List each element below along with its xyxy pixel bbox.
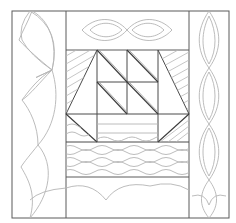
sail-diagonal-echo [99,50,129,82]
loop-outer-left [82,20,127,41]
wave-line [62,162,190,167]
hull-hatch [160,120,189,142]
bottom-scallop-band [66,184,189,200]
left-panel-diagonal [66,50,97,114]
quilt-pattern [0,0,236,223]
sail-diagonal [97,50,127,82]
top-band-motif [82,20,172,41]
sail-diagonal-echo [129,50,158,80]
sail-diagonal-echo [99,82,129,114]
bottom-scallop [66,184,189,200]
loop-inner-right [132,23,164,37]
right-cable-border [192,11,226,218]
sail-diagonal [97,82,127,114]
wave-line [62,158,190,163]
sail-grid [66,50,189,114]
right-panel-diagonal [158,50,189,114]
loop-inner-left [90,23,122,37]
wave-line [62,146,190,151]
water-waves [62,146,190,175]
loop-outer-right [127,20,172,41]
scallop-curve-left [30,11,56,218]
hull-wave [97,137,158,141]
hatch-lines [160,44,189,124]
cable-strand [199,11,219,218]
cable-strand-inner [203,16,215,176]
sail-diagonal [127,50,158,82]
right-hatch-panel [158,44,189,124]
sail-diagonal [127,82,158,114]
wave-line [62,170,190,175]
hull [66,114,189,142]
left-scallop-border [19,11,56,218]
wave-line [62,150,190,155]
left-bottom-scallop [30,188,66,200]
cable-base-curve [192,195,226,205]
sail-diagonal-echo [129,82,158,112]
left-hatch-panel [66,48,100,114]
cable-strand [199,11,219,218]
